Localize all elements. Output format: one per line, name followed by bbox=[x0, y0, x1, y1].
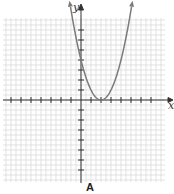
axes bbox=[3, 4, 173, 183]
graph bbox=[0, 0, 174, 194]
y-axis-label: y bbox=[73, 1, 79, 14]
x-axis-label: x bbox=[168, 99, 174, 112]
graph-caption: A bbox=[86, 181, 94, 193]
